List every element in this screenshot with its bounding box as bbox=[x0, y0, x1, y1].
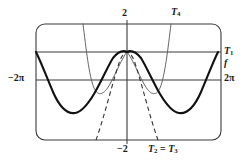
plot-canvas bbox=[0, 0, 243, 165]
label-y-max: 2 bbox=[122, 8, 127, 18]
label-x-max: 2π bbox=[224, 73, 234, 83]
label-y-min: −2 bbox=[117, 144, 128, 154]
label-f: f bbox=[224, 58, 227, 68]
label-t1: T1 bbox=[224, 46, 234, 57]
taylor-polynomial-figure: 2 T4 T1 f −2π 2π −2 T2 = T3 bbox=[0, 0, 243, 165]
label-x-min: −2π bbox=[8, 73, 24, 83]
label-t2-t3: T2 = T3 bbox=[148, 144, 178, 155]
label-t4: T4 bbox=[171, 7, 181, 18]
screen-frame bbox=[36, 24, 221, 140]
